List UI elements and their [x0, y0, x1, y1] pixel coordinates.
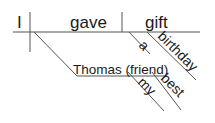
- subject-word: I: [17, 13, 22, 32]
- sentence-diagram: I gave gift Thomas (friend) a birthday m…: [0, 0, 215, 123]
- verb-word: gave: [70, 13, 107, 32]
- indirect-object-word: Thomas (friend): [73, 62, 168, 77]
- modifier-a: a: [136, 37, 153, 54]
- indirect-object-diagonal: [34, 32, 77, 76]
